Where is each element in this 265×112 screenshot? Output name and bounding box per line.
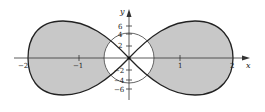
figure-eight-diagram: x −2 −1 1 2 y 6 4 2 −2 −4 −6 [0, 0, 265, 112]
x-axis-label: x [246, 61, 251, 70]
y-tick-label: 2 [118, 42, 122, 50]
x-tick-label: −2 [18, 62, 28, 70]
x-tick-label: 2 [230, 62, 234, 70]
y-axis: y 6 4 2 −2 −4 −6 [114, 7, 132, 100]
y-tick-label: −6 [114, 86, 125, 94]
x-tick-label: −1 [73, 62, 83, 70]
y-tick-label: 6 [118, 23, 123, 31]
x-axis-arrow-icon [242, 56, 250, 61]
x-tick-label: 1 [178, 62, 182, 70]
y-tick-label: −2 [114, 67, 124, 75]
y-tick-label: −4 [114, 77, 125, 85]
origin-point [127, 56, 130, 59]
y-tick-label: 4 [118, 31, 123, 39]
y-axis-label: y [119, 7, 125, 16]
y-axis-arrow-icon [127, 9, 132, 17]
